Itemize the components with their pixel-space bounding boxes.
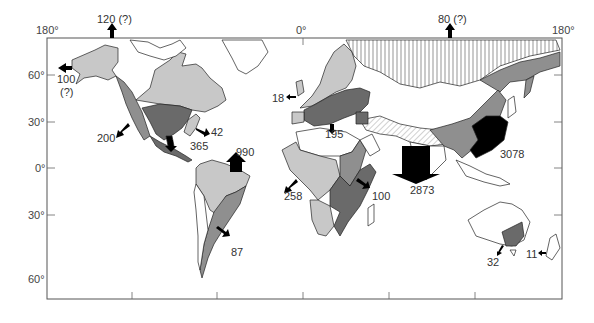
lat-label-0: 0° (35, 162, 46, 174)
flow-label-siberia-north: 80 (?) (438, 13, 467, 25)
lat-label-60n: 60° (28, 69, 45, 81)
flow-label-east-africa: 100 (372, 190, 390, 202)
madagascar (368, 204, 374, 226)
flow-label-amazon: 990 (236, 146, 254, 158)
world-sediment-flux-map (0, 0, 594, 323)
flow-label-alaska-north: 120 (?) (97, 13, 132, 25)
flow-label-southeast-australia: 32 (487, 256, 499, 268)
lon-label-0: 0° (296, 24, 307, 36)
iberia (292, 112, 304, 124)
lon-label-right-180: 180° (552, 24, 575, 36)
flow-label-eastern-na: 42 (211, 126, 223, 138)
caspian-region (356, 112, 368, 124)
flow-label-southern-sa: 87 (231, 246, 243, 258)
lon-label-left-180: 180° (36, 24, 59, 36)
lat-label-30n: 30° (28, 116, 45, 128)
arrow-siberia-north (445, 23, 455, 38)
lat-label-60s: 60° (28, 273, 45, 285)
flow-label-alaska-west-1: 100 (57, 73, 75, 85)
flow-label-western-na: 200 (97, 132, 115, 144)
flow-label-mediterranean: 195 (325, 128, 343, 140)
flow-label-new-zealand: 11 (526, 248, 537, 260)
arrow-alaska-north (107, 23, 117, 38)
flow-label-south-asia: 2873 (410, 184, 434, 196)
lat-label-30s: 30° (28, 209, 45, 221)
flow-label-mexico: 365 (190, 140, 208, 152)
flow-label-east-asia: 3078 (500, 148, 524, 160)
flow-label-west-africa: 258 (284, 190, 302, 202)
flow-label-alaska-west-2: (?) (60, 86, 73, 98)
flow-label-western-europe: 18 (272, 92, 284, 104)
